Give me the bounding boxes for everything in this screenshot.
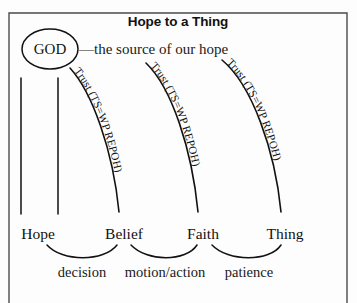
page-title: Hope to a Thing	[128, 14, 229, 29]
hope-to-a-thing-diagram: Hope to a Thing GOD —the source of our h…	[0, 0, 357, 303]
phase-bracket-motion	[131, 245, 197, 258]
trust-arc-label-belief: Trust (TS=WP REPOH)	[72, 65, 125, 174]
phase-label-decision: decision	[58, 264, 107, 280]
node-label-thing: Thing	[266, 225, 303, 242]
node-label-belief: Belief	[105, 225, 144, 242]
trust-arc-label-faith: Trust (TS=WP REPOH)	[149, 60, 203, 168]
god-node-label: GOD	[34, 41, 67, 57]
phase-bracket-decision	[47, 245, 117, 258]
node-label-hope: Hope	[21, 225, 55, 242]
source-caption: —the source of our hope	[78, 41, 228, 57]
node-label-faith: Faith	[187, 225, 219, 242]
phase-label-patience: patience	[225, 264, 273, 280]
diagram-canvas: Hope to a Thing GOD —the source of our h…	[0, 0, 357, 303]
trust-arc-label-thing: Trust (TS=WP REPOH)	[225, 56, 284, 162]
phase-bracket-patience	[212, 245, 281, 258]
phase-label-motion: motion/action	[125, 264, 206, 280]
